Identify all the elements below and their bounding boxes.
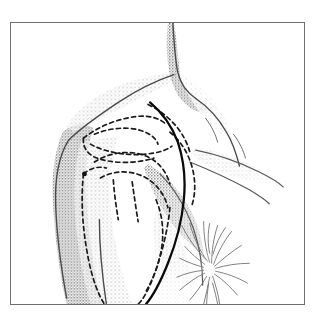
axillary-hair-core — [201, 252, 219, 284]
shoulder-anatomy-illustration — [11, 23, 304, 304]
figure-frame — [10, 22, 305, 305]
figure-page — [0, 0, 316, 317]
landmark-dot-coracoid — [82, 172, 87, 177]
